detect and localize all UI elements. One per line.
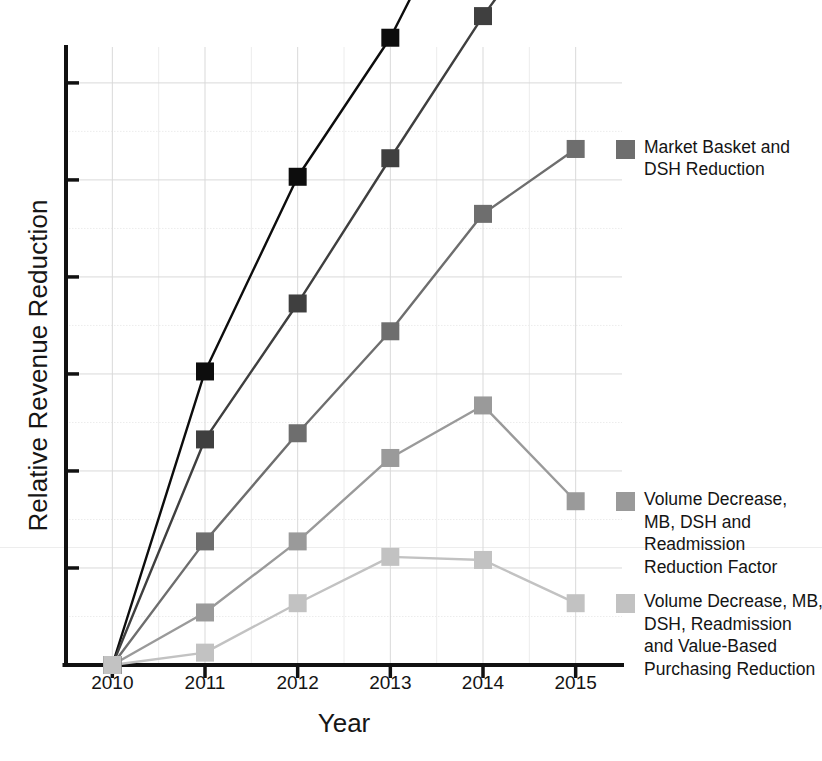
x-axis-title: Year — [66, 708, 622, 739]
x-tick-label-2011: 2011 — [165, 672, 245, 694]
x-tick-label-2010: 2010 — [72, 672, 152, 694]
axis-lines — [65, 47, 623, 665]
legend-label: Volume Decrease, MB, DSH, Readmission an… — [644, 590, 822, 680]
x-tick-label-2013: 2013 — [350, 672, 430, 694]
x-tick-label-2014: 2014 — [443, 672, 523, 694]
legend-swatch-icon — [616, 594, 635, 613]
legend-label: Volume Decrease, MB, DSH and Readmission… — [644, 488, 822, 578]
legend-swatch-icon — [616, 492, 635, 511]
chart-figure: Relative Revenue Reduction 2010201120122… — [0, 0, 822, 761]
x-tick-label-2015: 2015 — [536, 672, 616, 694]
x-tick-label-2012: 2012 — [258, 672, 338, 694]
legend-label: Market Basket and DSH Reduction — [644, 136, 822, 181]
legend-swatch-icon — [616, 140, 635, 159]
